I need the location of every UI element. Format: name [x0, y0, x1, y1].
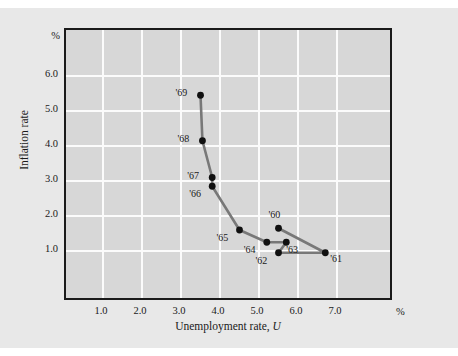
data-point-label: '61	[330, 254, 342, 264]
x-axis-unit-label: %	[396, 306, 405, 317]
data-point-label: '68	[177, 134, 189, 144]
data-point-label: '65	[217, 233, 229, 243]
data-point-label: '64	[244, 245, 256, 255]
x-tick-label: 4.0	[203, 306, 233, 317]
data-point-marker[interactable]	[209, 174, 216, 181]
y-tick-label: 6.0	[28, 69, 58, 80]
y-tick-label: 2.0	[28, 209, 58, 220]
data-point-marker[interactable]	[322, 249, 329, 256]
x-tick-label: 3.0	[164, 306, 194, 317]
x-axis-title-variable: U	[273, 320, 281, 332]
data-point-marker[interactable]	[197, 92, 204, 99]
plot-area	[64, 28, 392, 300]
data-point-marker[interactable]	[236, 227, 243, 234]
data-point-label: '67	[187, 171, 199, 181]
series-line	[201, 95, 326, 253]
x-axis-title: Unemployment rate, U	[64, 320, 392, 332]
data-point-marker[interactable]	[275, 249, 282, 256]
data-point-marker[interactable]	[199, 137, 206, 144]
y-axis-unit-label: %	[30, 30, 60, 41]
y-tick-label: 3.0	[28, 174, 58, 185]
x-tick-label: 1.0	[86, 306, 116, 317]
x-tick-label: 5.0	[242, 306, 272, 317]
data-point-label: '62	[256, 256, 268, 266]
x-tick-label: 2.0	[125, 306, 155, 317]
x-tick-label: 7.0	[320, 306, 350, 317]
data-point-marker[interactable]	[263, 239, 270, 246]
data-point-marker[interactable]	[275, 225, 282, 232]
data-point-label: '60	[269, 210, 281, 220]
x-axis-title-text: Unemployment rate,	[175, 320, 272, 332]
y-tick-label: 4.0	[28, 139, 58, 150]
data-point-marker[interactable]	[209, 183, 216, 190]
data-point-label: '66	[189, 189, 201, 199]
figure-container: % % Inflation rate Unemployment rate, U …	[0, 8, 458, 348]
y-tick-label: 5.0	[28, 104, 58, 115]
y-tick-label: 1.0	[28, 244, 58, 255]
x-tick-label: 6.0	[281, 306, 311, 317]
data-point-label: '63	[286, 245, 298, 255]
data-point-label: '69	[176, 88, 188, 98]
